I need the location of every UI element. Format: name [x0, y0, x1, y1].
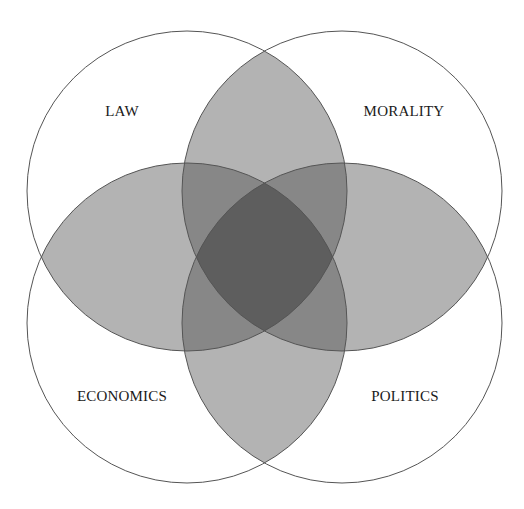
label-economics: ECONOMICS	[77, 388, 167, 405]
venn-diagram: LAW MORALITY ECONOMICS POLITICS	[0, 0, 524, 509]
venn-diagram-graphic	[0, 0, 524, 509]
overlap-regions	[27, 31, 502, 483]
label-morality: MORALITY	[364, 103, 445, 120]
label-law: LAW	[105, 103, 139, 120]
label-politics: POLITICS	[371, 388, 438, 405]
